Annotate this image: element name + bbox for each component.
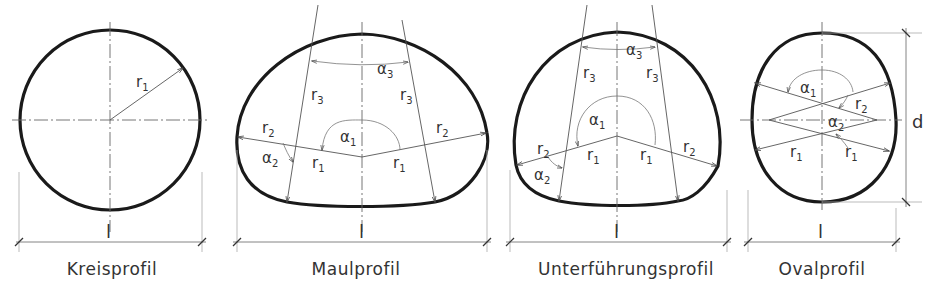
label-r2-left: r2 [537,140,550,160]
label-r2: r2 [855,95,868,115]
profile-diagram: r1 l Kreisprofil r2 r2 r1 r1 r3 r3 α3 α1… [0,0,938,297]
width-dimension-label: l [818,221,823,242]
label-r1-left: r1 [312,154,325,174]
label-alpha2: α2 [828,113,844,133]
maulprofil-figure: r2 r2 r1 r1 r3 r3 α3 α1 α2 l Maulprofil [233,5,491,279]
angle-a1-arc [322,120,400,150]
kreisprofil-figure: r1 l Kreisprofil [12,22,210,279]
label-alpha2: α2 [534,166,550,186]
label-r3-right: r3 [400,86,413,106]
label-alpha3: α3 [626,41,642,61]
label-r1-right: r1 [845,143,858,163]
label-r1-left: r1 [790,143,803,163]
label-r2-right: r2 [436,119,449,139]
label-alpha1: α1 [589,111,605,131]
label-r1-right: r1 [393,154,406,174]
radius-r3-left-line [559,5,587,201]
oval-outline [752,33,896,202]
radius-r1-line [110,68,183,120]
label-alpha3: α3 [377,60,393,80]
radius-r2-left-line [517,136,617,165]
radius-r3-right-line [652,5,678,201]
angle-a1-arc [788,70,853,92]
label-r1-right: r1 [640,146,653,166]
radius-r1-left-lower [755,120,877,150]
width-dimension-label: l [359,221,364,242]
label-r2-left: r2 [262,119,275,139]
caption-maulprofil: Maulprofil [312,259,401,279]
label-r1-left: r1 [587,146,600,166]
height-dimension-label: d [912,111,923,132]
label-r3-left: r3 [311,86,324,106]
radius-r2-right-line [617,136,717,166]
label-alpha2: α2 [262,149,278,169]
width-dimension-label: l [106,221,111,242]
label-alpha1: α1 [800,79,816,99]
ovalprofil-figure: α1 r2 α2 r1 r1 d l Ovalprofil [740,22,923,279]
radius-r2-right-line [362,133,486,157]
caption-ovalprofil: Ovalprofil [779,259,866,279]
label-r1: r1 [136,73,149,93]
angle-a3-arc [312,61,408,65]
angle-a2-arc [548,157,562,168]
width-dimension-label: l [614,221,619,242]
label-r3-right: r3 [646,64,659,84]
unterfuehrungsprofil-figure: r2 r2 r1 r1 r3 r3 α3 α1 α2 l Unterführun… [506,5,731,279]
caption-kreisprofil: Kreisprofil [67,259,158,279]
angle-a3-arc [583,47,655,50]
caption-unterfuehrungsprofil: Unterführungsprofil [538,259,714,279]
label-r3-left: r3 [583,64,596,84]
label-alpha1: α1 [340,128,356,148]
label-r2-right: r2 [683,138,696,158]
